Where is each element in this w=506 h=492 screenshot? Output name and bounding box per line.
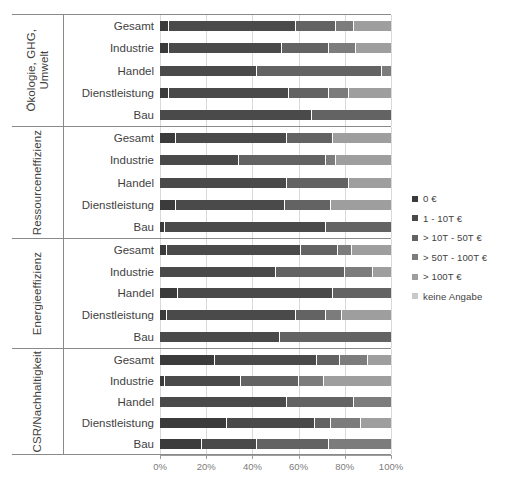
bar-segment bbox=[301, 245, 338, 255]
bar-cell bbox=[160, 37, 391, 59]
gridline bbox=[391, 370, 392, 391]
stacked-bar bbox=[160, 397, 391, 407]
bar-segment bbox=[312, 110, 391, 120]
bar-segment bbox=[329, 88, 350, 98]
legend-item[interactable]: > 50T - 100T € bbox=[412, 252, 506, 263]
bar-segment bbox=[169, 43, 282, 53]
row-label: Bau bbox=[64, 221, 160, 233]
x-tick bbox=[160, 455, 161, 459]
bar-cell bbox=[160, 239, 391, 261]
row-label: Bau bbox=[64, 331, 160, 343]
bar-segment bbox=[382, 66, 391, 76]
gridline bbox=[391, 127, 392, 149]
row-label: Dienstleistung bbox=[64, 199, 160, 211]
bar-group: EnergieeffizienzGesamtIndustrieHandelDie… bbox=[12, 238, 391, 348]
bar-segment bbox=[276, 267, 345, 277]
bar-segment bbox=[169, 21, 296, 31]
gridline bbox=[391, 261, 392, 283]
bar-row: Dienstleistung bbox=[64, 194, 391, 216]
gridline bbox=[391, 15, 392, 37]
legend-label: > 10T - 50T € bbox=[423, 232, 482, 243]
gridline bbox=[391, 82, 392, 104]
gridline bbox=[391, 304, 392, 326]
bar-cell bbox=[160, 349, 391, 370]
bar-segment bbox=[169, 88, 289, 98]
x-tick bbox=[252, 455, 253, 459]
bar-segment bbox=[336, 21, 354, 31]
bar-segment bbox=[165, 376, 241, 386]
group-rows: GesamtIndustrieHandelDienstleistungBau bbox=[64, 239, 391, 348]
bar-row: Industrie bbox=[64, 261, 391, 283]
gridline bbox=[391, 391, 392, 412]
bar-segment bbox=[160, 267, 276, 277]
bar-segment bbox=[329, 43, 357, 53]
legend-item[interactable]: 1 - 10T € bbox=[412, 213, 506, 224]
gridline bbox=[391, 216, 392, 238]
group-title: Energieeffizienz bbox=[12, 239, 64, 348]
bar-segment bbox=[160, 245, 167, 255]
bar-cell bbox=[160, 304, 391, 326]
bar-segment bbox=[354, 397, 391, 407]
bar-segment bbox=[352, 245, 391, 255]
bar-segment bbox=[349, 88, 391, 98]
bar-segment bbox=[227, 418, 315, 428]
row-label: Bau bbox=[64, 438, 160, 450]
legend-item[interactable]: > 100T € bbox=[412, 271, 506, 282]
bar-segment bbox=[280, 332, 391, 342]
x-tick-label: 100% bbox=[379, 461, 403, 472]
bar-segment bbox=[333, 288, 391, 298]
bar-segment bbox=[160, 200, 176, 210]
bar-segment bbox=[373, 267, 391, 277]
stacked-bar bbox=[160, 288, 391, 298]
x-axis: 0%20%40%60%80%100% bbox=[160, 455, 391, 477]
stacked-bar bbox=[160, 355, 391, 365]
bar-cell bbox=[160, 194, 391, 216]
row-label: Industrie bbox=[64, 42, 160, 54]
bar-group: CSR/NachhaltigkeitGesamtIndustrieHandelD… bbox=[12, 348, 391, 455]
bar-row: Handel bbox=[64, 59, 391, 81]
bar-row: Dienstleistung bbox=[64, 412, 391, 433]
x-tick bbox=[345, 455, 346, 459]
bar-cell bbox=[160, 127, 391, 149]
bar-cell bbox=[160, 15, 391, 37]
bar-cell bbox=[160, 326, 391, 348]
bar-segment bbox=[285, 200, 331, 210]
gridline bbox=[391, 171, 392, 193]
bar-segment bbox=[241, 376, 299, 386]
x-axis-line bbox=[160, 455, 391, 456]
stacked-bar bbox=[160, 155, 391, 165]
legend-item[interactable]: 0 € bbox=[412, 193, 506, 204]
bar-row: Handel bbox=[64, 171, 391, 193]
stacked-bar bbox=[160, 110, 391, 120]
bar-cell bbox=[160, 283, 391, 305]
legend-label: keine Angabe bbox=[423, 291, 482, 302]
bar-row: Gesamt bbox=[64, 239, 391, 261]
bar-segment bbox=[296, 21, 335, 31]
stacked-bar bbox=[160, 222, 391, 232]
row-label: Gesamt bbox=[64, 354, 160, 366]
bar-segment bbox=[296, 310, 326, 320]
bar-cell bbox=[160, 412, 391, 433]
bar-segment bbox=[287, 178, 349, 188]
stacked-bar bbox=[160, 66, 391, 76]
bar-segment bbox=[160, 43, 169, 53]
bar-cell bbox=[160, 391, 391, 412]
bar-segment bbox=[239, 155, 327, 165]
bar-segment bbox=[356, 43, 391, 53]
bar-segment bbox=[329, 439, 391, 449]
row-label: Dienstleistung bbox=[64, 309, 160, 321]
bar-segment bbox=[160, 418, 227, 428]
stacked-bar bbox=[160, 133, 391, 143]
legend-item[interactable]: keine Angabe bbox=[412, 291, 506, 302]
gridline bbox=[391, 149, 392, 171]
bar-segment bbox=[202, 439, 257, 449]
bar-cell bbox=[160, 433, 391, 454]
stacked-bar bbox=[160, 88, 391, 98]
x-tick-label: 60% bbox=[289, 461, 308, 472]
legend-item[interactable]: > 10T - 50T € bbox=[412, 232, 506, 243]
gridline bbox=[391, 283, 392, 305]
bar-segment bbox=[287, 397, 354, 407]
bar-row: Industrie bbox=[64, 149, 391, 171]
row-label: Industrie bbox=[64, 154, 160, 166]
bar-row: Bau bbox=[64, 104, 391, 126]
